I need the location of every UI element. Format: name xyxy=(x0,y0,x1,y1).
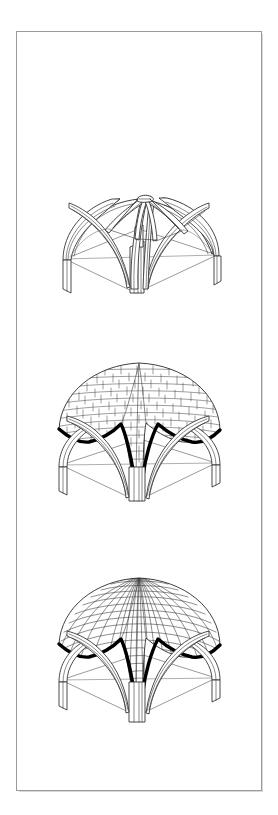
front-right-arch xyxy=(159,198,219,256)
apex-boss xyxy=(137,195,154,202)
figure-3-radial-web xyxy=(17,532,263,737)
vault-web xyxy=(59,576,220,694)
figure-1-rib-frame xyxy=(17,107,263,312)
pier-front-right xyxy=(214,256,221,285)
figure-2-drawing xyxy=(17,317,263,522)
figure-2-coursed-web xyxy=(17,317,263,522)
pier-near-center xyxy=(129,682,145,722)
page-sheet xyxy=(16,31,262,791)
pier-front-right xyxy=(212,465,220,487)
pier-front-right xyxy=(212,680,220,702)
figure-1-drawing xyxy=(17,107,263,312)
plate-root xyxy=(0,0,278,815)
pier-front-left xyxy=(59,682,67,710)
figure-3-drawing xyxy=(17,532,263,737)
pier-front-left xyxy=(59,467,67,495)
pier-near-center xyxy=(129,467,145,501)
pier-front-left xyxy=(63,260,71,293)
